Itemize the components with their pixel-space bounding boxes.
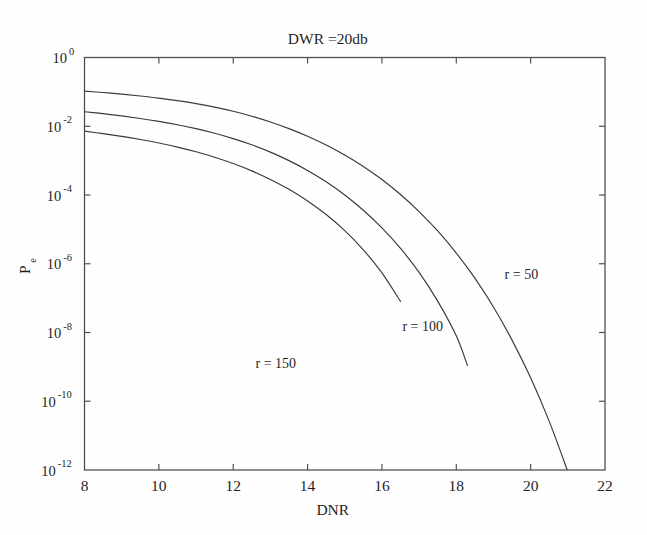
series-annotation: r = 150 (256, 356, 297, 371)
y-tick-mantissa: 10 (47, 325, 62, 341)
y-tick-mantissa: 10 (47, 256, 62, 272)
y-tick-group: 100 (52, 46, 74, 67)
y-tick-group: 10-10 (41, 389, 605, 410)
figure-canvas: 81012141618202210010-210-410-610-810-101… (0, 0, 647, 535)
y-tick-mantissa: 10 (47, 188, 62, 204)
x-tick-label: 12 (225, 477, 241, 494)
x-tick-group: 22 (597, 477, 613, 494)
x-tick-label: 8 (81, 477, 89, 494)
y-axis-title: P (16, 265, 33, 274)
y-tick-group: 10-4 (47, 183, 605, 204)
y-tick-mantissa: 10 (47, 119, 62, 135)
x-tick-label: 14 (300, 477, 316, 494)
x-tick-group: 18 (449, 58, 465, 495)
plot-frame (85, 58, 606, 471)
curve-r50 (85, 91, 568, 470)
y-tick-exponent: -2 (63, 114, 72, 125)
x-tick-group: 12 (225, 58, 241, 495)
x-axis-title: DNR (316, 501, 349, 518)
chart-title: DWR =20db (288, 30, 368, 47)
x-tick-group: 16 (374, 58, 390, 495)
y-tick-group: 10-12 (41, 458, 71, 479)
y-axis-title-subscript: e (27, 258, 38, 263)
y-tick-group: 10-8 (47, 321, 605, 342)
x-tick-label: 18 (449, 477, 465, 494)
x-tick-group: 8 (81, 477, 89, 494)
y-tick-mantissa: 10 (52, 50, 67, 66)
y-axis-title-group: Pe (16, 258, 38, 274)
x-tick-group: 14 (300, 58, 316, 495)
x-tick-label: 22 (597, 477, 613, 494)
y-tick-mantissa: 10 (41, 463, 56, 479)
semilog-plot: 81012141618202210010-210-410-610-810-101… (0, 0, 647, 535)
y-tick-exponent: -4 (63, 183, 72, 194)
y-tick-exponent: -10 (58, 389, 72, 400)
x-tick-label: 20 (523, 477, 539, 494)
y-tick-mantissa: 10 (41, 394, 56, 410)
curves-group (85, 91, 568, 470)
y-tick-exponent: -8 (63, 321, 72, 332)
y-tick-exponent: -6 (63, 252, 72, 263)
y-tick-exponent: -12 (58, 458, 72, 469)
curve-r150 (85, 131, 401, 301)
series-annotation: r = 50 (505, 267, 539, 282)
x-tick-label: 16 (374, 477, 390, 494)
x-tick-label: 10 (151, 477, 167, 494)
x-tick-group: 10 (151, 58, 167, 495)
y-tick-exponent: 0 (69, 46, 74, 57)
series-annotation: r = 100 (402, 319, 443, 334)
